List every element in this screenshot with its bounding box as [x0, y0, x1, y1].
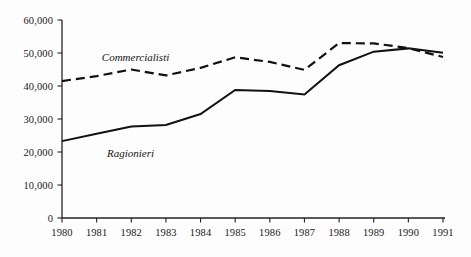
x-axis-label-1984: 1984: [190, 227, 211, 238]
x-axis-label-1982: 1982: [121, 227, 142, 238]
series-annotation-ragionieri: Ragionieri: [107, 147, 154, 159]
series-annotation-commercialisti: Commercialisti: [102, 51, 169, 63]
x-axis-label-1991: 1991: [432, 227, 453, 238]
x-axis-label-1983: 1983: [155, 227, 176, 238]
y-axis-label-0: 0: [0, 213, 53, 224]
x-axis-label-1990: 1990: [398, 227, 419, 238]
x-axis-label-1986: 1986: [259, 227, 280, 238]
y-axis-label-10000: 10,000: [0, 180, 53, 191]
y-axis-label-50000: 50,000: [0, 48, 53, 59]
y-axis-label-30000: 30,000: [0, 114, 53, 125]
chart-container: 010,00020,00030,00040,00050,00060,000 19…: [0, 0, 471, 257]
x-axis-label-1989: 1989: [363, 227, 384, 238]
x-axis-label-1987: 1987: [294, 227, 315, 238]
y-axis-label-60000: 60,000: [0, 15, 53, 26]
line-chart-plot: [0, 0, 471, 257]
x-axis-label-1981: 1981: [86, 227, 107, 238]
x-axis-label-1985: 1985: [224, 227, 245, 238]
y-axis-label-20000: 20,000: [0, 147, 53, 158]
y-axis-label-40000: 40,000: [0, 81, 53, 92]
x-axis-label-1980: 1980: [51, 227, 72, 238]
x-axis-label-1988: 1988: [328, 227, 349, 238]
